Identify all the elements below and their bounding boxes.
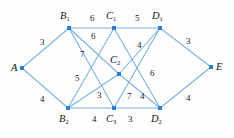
node-label-D2: D2 [151,114,162,125]
node-label-E: E [216,62,222,73]
node-label-D1: D1 [152,11,163,22]
edge-weight-A-B1: 3 [40,38,45,47]
edge-weight-A-B2: 4 [40,95,45,104]
node-label-A: A [11,63,17,74]
node-label-B2: B2 [59,114,69,125]
graph-node-E [209,65,213,69]
graph-node-D2 [158,106,162,110]
graph-node-B2 [66,106,70,110]
node-label-C3: C3 [106,114,116,125]
graph-edge-A-B1 [22,28,69,68]
graph-node-D1 [158,26,162,30]
edge-weight-B1-C1: 6 [90,14,95,23]
graph-edge-D1-E [160,28,211,67]
edge-weight-B1-C3: 7 [80,50,85,59]
node-label-C1: C1 [106,11,116,22]
graph-node-B1 [67,26,71,30]
edge-weight-C3-D1: 4 [140,92,145,101]
edge-weight-C2-D2: 7 [127,92,132,101]
edge-weight-B2-C3: 4 [92,115,97,124]
graph-node-C1 [112,26,116,30]
edge-weight-C1-D1: 5 [135,14,140,23]
edge-weight-B1-C2: 6 [91,32,96,41]
graph-edge-A-B2 [22,68,68,108]
graph-node-C2 [117,72,121,76]
node-label-B1: B1 [60,11,70,22]
edge-weight-B2-C1: 5 [75,74,80,83]
edge-weight-C3-D2: 3 [128,115,133,124]
node-label-C2: C2 [110,55,120,66]
weighted-graph-figure: AB1B2C1C2C3D1D2E 3466753454674334 [0,0,234,138]
edge-weight-B2-C2: 3 [97,91,102,100]
edge-weight-C2-D1: 6 [150,69,155,78]
graph-node-C3 [112,106,116,110]
graph-canvas [0,0,234,138]
nodes-group [20,26,213,110]
edges-group [22,28,211,108]
edge-weight-D1-E: 3 [186,37,191,46]
graph-node-A [20,66,24,70]
edge-weight-D2-E: 4 [186,94,191,103]
edge-weight-C1-D2: 4 [137,41,142,50]
